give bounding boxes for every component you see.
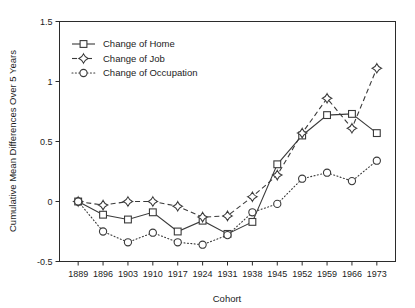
marker-diamond: [173, 202, 182, 211]
x-tick-label: 1910: [143, 269, 163, 279]
x-tick-label: 1917: [168, 269, 188, 279]
legend-item-2: Change of Job: [72, 53, 165, 64]
x-tick-label: 1903: [118, 269, 138, 279]
x-axis-ticks: 1889189619031910191719241931193819451952…: [68, 262, 387, 279]
y-tick-label: 0.5: [40, 137, 53, 147]
marker-circle: [174, 239, 181, 246]
chart-canvas: -0.500.511.5 188918961903191019171924193…: [0, 0, 415, 308]
marker-circle: [149, 229, 156, 236]
x-tick-label: 1973: [367, 269, 387, 279]
marker-square: [373, 130, 380, 137]
marker-square: [324, 112, 331, 119]
marker-square: [80, 41, 87, 48]
legend-label: Change of Occupation: [103, 67, 198, 78]
x-tick-label: 1924: [193, 269, 213, 279]
marker-square: [274, 161, 281, 168]
marker-circle: [274, 200, 281, 207]
x-axis-title: Cohort: [213, 293, 242, 304]
x-tick-label: 1938: [242, 269, 262, 279]
marker-diamond: [98, 201, 107, 210]
marker-square: [249, 219, 256, 226]
legend-label: Change of Home: [103, 38, 175, 49]
data-series-group: [74, 64, 382, 249]
marker-circle: [75, 198, 82, 205]
marker-circle: [249, 209, 256, 216]
marker-circle: [199, 241, 206, 248]
marker-circle: [323, 169, 330, 176]
series-2: [74, 64, 382, 222]
marker-diamond: [248, 192, 257, 201]
marker-diamond: [347, 124, 356, 133]
x-tick-label: 1952: [292, 269, 312, 279]
y-tick-label: 0: [47, 197, 52, 207]
x-tick-label: 1945: [267, 269, 287, 279]
y-tick-label: 1: [47, 77, 52, 87]
x-tick-label: 1966: [342, 269, 362, 279]
marker-square: [174, 228, 181, 235]
marker-circle: [299, 175, 306, 182]
x-tick-label: 1889: [68, 269, 88, 279]
x-tick-label: 1931: [217, 269, 237, 279]
legend-item-1: Change of Home: [72, 38, 175, 49]
marker-diamond: [223, 211, 232, 220]
marker-square: [149, 209, 156, 216]
y-tick-label: 1.5: [40, 17, 53, 27]
marker-circle: [80, 69, 87, 76]
marker-diamond: [148, 197, 157, 206]
legend-label: Change of Job: [103, 53, 165, 64]
marker-circle: [99, 228, 106, 235]
marker-square: [100, 211, 107, 218]
x-tick-label: 1896: [93, 269, 113, 279]
marker-diamond: [79, 54, 88, 63]
marker-circle: [348, 178, 355, 185]
y-axis-ticks: -0.500.511.5: [37, 17, 60, 267]
marker-square: [125, 216, 132, 223]
series-line: [78, 68, 377, 217]
marker-circle: [124, 239, 131, 246]
legend-item-3: Change of Occupation: [72, 67, 198, 78]
chart-figure: -0.500.511.5 188918961903191019171924193…: [0, 0, 415, 308]
chart-legend: Change of HomeChange of JobChange of Occ…: [72, 38, 198, 78]
marker-square: [349, 111, 356, 118]
y-axis-title: Cumulative Mean Differences Over 5 Years: [7, 50, 18, 232]
marker-diamond: [123, 197, 132, 206]
y-tick-label: -0.5: [37, 257, 53, 267]
x-tick-label: 1959: [317, 269, 337, 279]
marker-circle: [373, 157, 380, 164]
marker-circle: [224, 232, 231, 239]
marker-diamond: [372, 64, 381, 73]
